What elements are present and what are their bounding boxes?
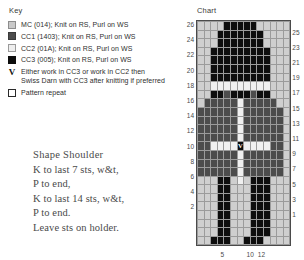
chart-cell: [198, 82, 205, 91]
chart-cell: [230, 142, 237, 151]
chart-cell: [257, 47, 264, 56]
chart-cell: [198, 228, 205, 237]
chart-cell: [211, 236, 218, 245]
instruction-line: P to end,: [33, 177, 183, 192]
chart-cell: [283, 193, 290, 202]
chart-cell: [230, 133, 237, 142]
chart-cell: [263, 185, 270, 194]
chart-cell: [250, 236, 257, 245]
chart-cell: [244, 107, 251, 116]
chart-cell: [244, 159, 251, 168]
chart-cell: [237, 30, 244, 39]
chart-cell: [211, 150, 218, 159]
chart-cell: [270, 142, 277, 151]
chart-cell: [217, 73, 224, 82]
chart-cell: [211, 39, 218, 48]
chart-cell: [277, 176, 284, 185]
chart-cell: [217, 185, 224, 194]
chart-cell: [224, 30, 231, 39]
chart-cell: [237, 219, 244, 228]
chart-cell: [283, 168, 290, 177]
cc3-swatch: [8, 56, 16, 64]
chart-cell: [237, 90, 244, 99]
row-label: 20: [182, 67, 194, 75]
chart-cell: [270, 125, 277, 134]
chart-cell: [198, 211, 205, 220]
key-item-swiss-darn-line2: Swiss Darn with CC3 after knitting if pr…: [21, 76, 165, 85]
chart-cell: [217, 228, 224, 237]
chart-cell: [198, 176, 205, 185]
chart-cell: [250, 159, 257, 168]
chart-cell: [257, 99, 264, 108]
chart-cell: [204, 90, 211, 99]
chart-cell: [263, 133, 270, 142]
chart-cell: [270, 107, 277, 116]
chart-cell: [270, 56, 277, 65]
row-label: 7: [292, 165, 304, 173]
chart-cell: [204, 228, 211, 237]
chart-cell: [217, 236, 224, 245]
chart-cell: [211, 56, 218, 65]
chart-cell: [270, 90, 277, 99]
chart-cell: [263, 202, 270, 211]
chart-cell: [283, 185, 290, 194]
chart-cell: [244, 47, 251, 56]
chart-cell: [204, 211, 211, 220]
chart-row: [198, 185, 290, 194]
chart-cell: [204, 185, 211, 194]
chart-cell: [204, 107, 211, 116]
chart-cell: [230, 82, 237, 91]
chart-cell: [211, 202, 218, 211]
chart-cell: [250, 47, 257, 56]
chart-cell: [211, 168, 218, 177]
chart-cell: [230, 47, 237, 56]
chart-cell: [204, 236, 211, 245]
chart-cell: [237, 56, 244, 65]
chart-cell: [204, 82, 211, 91]
chart-cell: [211, 125, 218, 134]
row-label: 12: [182, 127, 194, 135]
chart-cell: [257, 22, 264, 31]
chart-cell: [250, 150, 257, 159]
chart-cell: [230, 176, 237, 185]
chart-cell: [283, 82, 290, 91]
chart-cell: [257, 185, 264, 194]
chart-cell: [204, 150, 211, 159]
chart-cell: [263, 176, 270, 185]
chart-cell: [277, 228, 284, 237]
chart-cell: [277, 82, 284, 91]
chart-cell: [204, 168, 211, 177]
chart-cell: [277, 56, 284, 65]
chart-cell: [283, 159, 290, 168]
chart-cell: [217, 107, 224, 116]
chart-cell: [257, 211, 264, 220]
chart-cell: [211, 116, 218, 125]
chart-cell: [257, 30, 264, 39]
chart-cell: [250, 39, 257, 48]
key-item-swiss-darn-line1: Either work in CC3 or work in CC2 then: [21, 68, 145, 75]
key-item-cc1: CC1 (1403); Knit on RS, Purl on WS: [8, 32, 186, 41]
chart-row: [198, 150, 290, 159]
row-label: 11: [292, 135, 304, 143]
chart-cell: [224, 228, 231, 237]
chart-title: Chart: [197, 6, 291, 15]
chart-cell: [204, 30, 211, 39]
chart-cell: [211, 30, 218, 39]
chart-cell: [244, 228, 251, 237]
chart-cell: [198, 56, 205, 65]
row-label: 8: [182, 158, 194, 166]
chart-cell: [217, 168, 224, 177]
chart-cell: [237, 64, 244, 73]
chart-cell: [224, 116, 231, 125]
chart-cell: [224, 107, 231, 116]
chart-row: [198, 202, 290, 211]
chart-cell: [217, 47, 224, 56]
chart-cell: [198, 39, 205, 48]
chart-cell: [270, 202, 277, 211]
chart-cell: [257, 219, 264, 228]
chart-cell: [270, 193, 277, 202]
chart-cell: [257, 168, 264, 177]
chart-cell: [257, 133, 264, 142]
chart-cell: [230, 56, 237, 65]
chart-cell: [204, 39, 211, 48]
